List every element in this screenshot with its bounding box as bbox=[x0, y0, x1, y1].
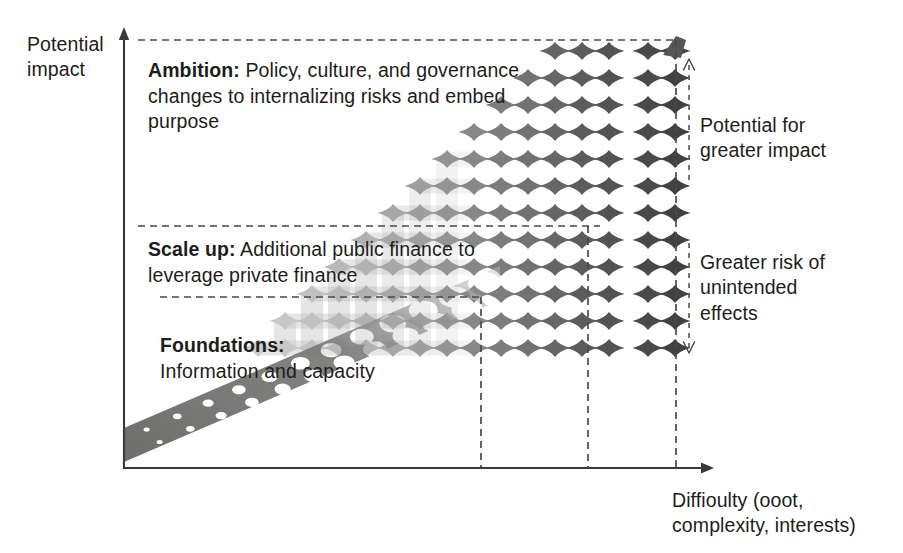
band-body-foundations: Information and capacity bbox=[160, 360, 375, 382]
band-title-scale-up: Scale up: bbox=[148, 238, 236, 260]
annotation-potential-for-greater-impact: Potential for greater impact bbox=[700, 113, 890, 164]
y-axis-label: Potential impact bbox=[27, 32, 137, 82]
band-label-ambition: Ambition: Policy, culture, and governanc… bbox=[148, 58, 578, 135]
band-title-foundations: Foundations: bbox=[160, 334, 285, 356]
band-label-foundations: Foundations: Information and capacity bbox=[160, 333, 390, 384]
x-axis-arrowhead bbox=[701, 463, 714, 474]
band-title-ambition: Ambition: bbox=[148, 59, 240, 81]
band-label-scale-up: Scale up: Additional public finance to l… bbox=[148, 237, 548, 288]
diagram-canvas: Potential impact Ambition: Policy, cultu… bbox=[0, 0, 903, 553]
annotation-greater-risk-unintended-effects: Greater risk of unintended effects bbox=[700, 250, 885, 326]
x-axis-label: Diffioulty (ooot, complexity, interests) bbox=[672, 488, 897, 538]
